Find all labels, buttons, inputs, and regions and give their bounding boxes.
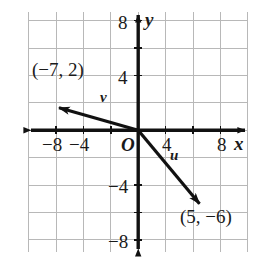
x-tick-label--8: −8: [42, 135, 62, 154]
vector-v-endpoint-label: (−7, 2): [32, 60, 84, 79]
x-axis-name: x: [234, 134, 244, 153]
y-tick-label--4: −4: [108, 177, 128, 196]
y-tick-label-8: 8: [118, 13, 128, 32]
y-tick-label-4: 4: [118, 68, 128, 87]
origin-label: O: [121, 135, 135, 154]
vector-diagram-figure: −8 −4 4 8 8 4 −4 −8 O x y v u (−7, 2) (5…: [0, 0, 274, 274]
vector-u-endpoint-label: (5, −6): [180, 207, 232, 226]
x-tick-label-8: 8: [217, 135, 227, 154]
y-axis-name: y: [145, 10, 153, 29]
vector-v-label: v: [100, 90, 107, 105]
vector-u-label: u: [170, 148, 178, 163]
x-tick-label--4: −4: [69, 135, 89, 154]
y-tick-label--8: −8: [108, 232, 128, 251]
